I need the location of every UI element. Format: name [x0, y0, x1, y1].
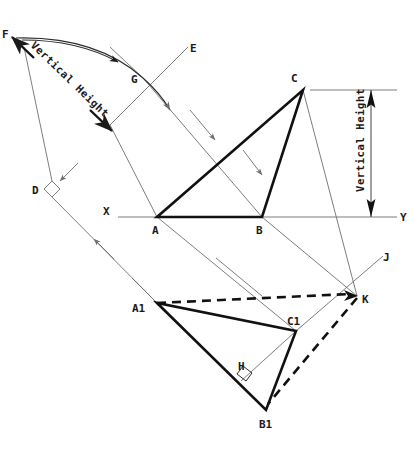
point-label-B: B [256, 224, 263, 237]
line-g-to-k [262, 217, 357, 296]
vertical-height-label-right: Vertical Height [354, 88, 366, 192]
projector-c-to-k [303, 90, 357, 296]
line-g-mid [143, 78, 262, 217]
dashed-construction [157, 294, 357, 404]
dashed-k-b1 [268, 298, 357, 404]
point-label-Y: Y [400, 211, 407, 224]
projector-extra [216, 258, 262, 296]
point-label-D: D [32, 184, 39, 197]
point-label-A1: A1 [132, 302, 146, 315]
geometry-diagram: Vertical Height Vertical Height F E G C … [0, 0, 415, 454]
arrow-e-down [243, 150, 262, 175]
point-label-C: C [291, 72, 298, 85]
point-label-E: E [190, 42, 197, 55]
point-label-A: A [152, 224, 159, 237]
line-f-to-d [24, 47, 52, 181]
triangle-abc [157, 90, 303, 217]
vertical-height-vector-left [12, 37, 112, 131]
point-label-B1: B1 [259, 418, 273, 431]
point-label-X: X [103, 205, 110, 218]
line-a1-extend [132, 278, 157, 303]
arrow-d-upper [60, 163, 78, 181]
point-label-J: J [383, 251, 390, 264]
point-label-G: G [131, 73, 138, 86]
arrow-g-down [190, 110, 215, 140]
line-e-down-1 [110, 125, 157, 217]
arrow-d-lower [94, 239, 114, 259]
point-label-K: K [362, 293, 369, 306]
point-label-F: F [2, 28, 9, 41]
line-to-e [110, 47, 188, 125]
point-label-C1: C1 [287, 315, 301, 328]
diagram-canvas: Vertical Height Vertical Height F E G C … [0, 0, 415, 454]
construction-lines [24, 47, 397, 381]
dashed-a1-k [157, 294, 350, 303]
line-e-down-2 [157, 217, 296, 331]
right-angle-marker-d [44, 181, 60, 197]
point-label-H: H [238, 360, 245, 373]
